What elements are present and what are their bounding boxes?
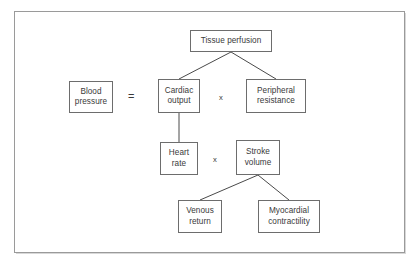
- diagram-canvas: Tissue perfusion Blood pressure Cardiac …: [0, 0, 420, 269]
- node-venous-return[interactable]: Venous return: [178, 200, 222, 233]
- node-peripheral-resistance[interactable]: Peripheral resistance: [246, 79, 306, 113]
- node-cardiac-output[interactable]: Cardiac output: [158, 79, 200, 113]
- frame-edge-shadow-right: [405, 13, 406, 254]
- node-heart-rate[interactable]: Heart rate: [160, 142, 198, 175]
- node-label-heart-rate: Heart rate: [167, 148, 191, 169]
- operator-equals: =: [128, 91, 134, 101]
- node-label-myocardial-contractility: Myocardial contractility: [266, 206, 312, 227]
- operator-multiply-bottom: x: [213, 155, 217, 165]
- node-label-cardiac-output: Cardiac output: [163, 86, 196, 107]
- node-label-venous-return: Venous return: [184, 206, 216, 227]
- node-tissue-perfusion[interactable]: Tissue perfusion: [190, 30, 272, 52]
- node-label-stroke-volume: Stroke volume: [243, 147, 274, 168]
- node-myocardial-contractility[interactable]: Myocardial contractility: [258, 200, 320, 233]
- node-stroke-volume[interactable]: Stroke volume: [236, 140, 280, 175]
- node-label-tissue-perfusion: Tissue perfusion: [199, 36, 264, 47]
- operator-multiply-top: x: [219, 93, 223, 103]
- node-label-peripheral-resistance: Peripheral resistance: [255, 86, 297, 107]
- node-label-blood-pressure: Blood pressure: [73, 87, 109, 108]
- frame-edge-shadow-bottom: [16, 253, 406, 254]
- node-blood-pressure[interactable]: Blood pressure: [69, 81, 113, 113]
